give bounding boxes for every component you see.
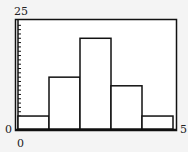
histogram-bar: [142, 116, 173, 129]
histogram-bar: [111, 86, 142, 129]
histogram-chart: [0, 0, 188, 152]
histogram-bar: [18, 116, 49, 129]
histogram-bar: [80, 38, 111, 129]
histogram-bar: [49, 77, 80, 129]
